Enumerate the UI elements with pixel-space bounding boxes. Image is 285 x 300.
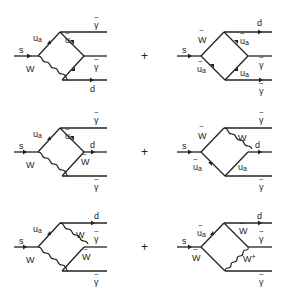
label-W: W (238, 133, 247, 143)
diagram-2: s ~ W ~ ua ~ ua ua d ~ γ ~ γ (177, 18, 272, 96)
label-W-plus: W+ (243, 253, 256, 264)
label-W: W (26, 255, 35, 265)
svg-text:~: ~ (199, 26, 204, 35)
label-gamma-tilde: γ (259, 234, 264, 244)
feynman-diagrams-figure: s ua W ~ ua ~ γ ~ γ d + s ~ W ~ (0, 0, 285, 300)
label-W-tilde: W (198, 131, 207, 141)
label-d: d (94, 211, 99, 221)
diagram-3: s ua W ~ ua d ~ W ~ γ ~ γ (14, 108, 107, 192)
label-W-tilde: W (81, 157, 90, 167)
label-ua-tilde: ua (197, 64, 206, 74)
plus-sign: + (141, 145, 148, 159)
label-ua: ua (33, 224, 42, 234)
label-gamma-tilde: γ (259, 60, 264, 70)
label-gamma-tilde: γ (259, 86, 264, 96)
label-gamma-tilde: γ (94, 115, 99, 125)
label-ua: ua (240, 68, 249, 78)
label-gamma-tilde: γ (259, 277, 264, 287)
label-ua: ua (33, 33, 42, 43)
label-W-tilde: W (82, 252, 91, 262)
label-W: W (76, 230, 85, 240)
label-gamma-tilde: γ (259, 115, 264, 125)
label-s: s (19, 45, 24, 55)
label-W: W (26, 160, 35, 170)
label-ua: ua (238, 162, 247, 172)
label-ua-tilde: ua (65, 35, 74, 45)
plus-sign: + (141, 49, 148, 63)
label-ua-tilde: ua (240, 36, 249, 46)
label-gamma-tilde: γ (94, 20, 99, 30)
label-s: s (19, 236, 24, 246)
diagram-1: s ua W ~ ua ~ γ ~ γ d (14, 13, 107, 94)
label-W-tilde: W (239, 226, 248, 236)
label-d: d (257, 211, 262, 221)
label-W: W (26, 64, 35, 74)
label-ua: ua (33, 129, 42, 139)
diagram-6: s ~ ua ~ W ~ W W+ d ~ γ ~ γ (177, 211, 272, 287)
label-d: d (90, 84, 95, 94)
label-ua-tilde: ua (197, 228, 206, 238)
label-s: s (182, 141, 187, 151)
label-d: d (90, 140, 95, 150)
label-gamma-tilde: γ (94, 62, 99, 72)
label-ua-tilde: ua (193, 162, 202, 172)
label-s: s (182, 236, 187, 246)
diagram-4: s ~ W ~ ua W d ua ~ γ ~ γ (177, 108, 272, 192)
svg-text:~: ~ (199, 122, 204, 131)
plus-sign: + (141, 240, 148, 254)
label-ua-tilde: ua (65, 131, 74, 141)
label-s: s (182, 45, 187, 55)
label-gamma-tilde: γ (94, 182, 99, 192)
label-W-tilde: W (198, 35, 207, 45)
label-gamma-tilde: γ (94, 277, 99, 287)
label-d: d (257, 18, 262, 28)
label-W-tilde: W (192, 253, 201, 263)
label-s: s (19, 141, 24, 151)
diagram-5: s ua W W ~ W d ~ γ ~ γ (14, 211, 107, 287)
label-gamma-tilde: γ (94, 234, 99, 244)
label-gamma-tilde: γ (259, 182, 264, 192)
label-d: d (255, 140, 260, 150)
